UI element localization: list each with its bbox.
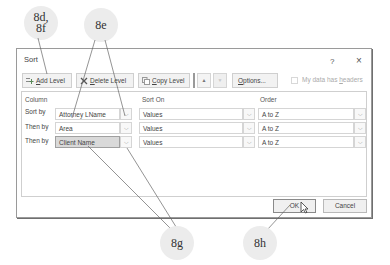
- help-button[interactable]: ?: [330, 57, 334, 66]
- chevron-down-icon[interactable]: ⌵: [120, 136, 132, 148]
- delete-level-button[interactable]: Delete Level: [76, 73, 134, 88]
- delete-level-label: Delete Level: [90, 77, 126, 84]
- options-button[interactable]: Options...: [232, 73, 278, 88]
- chevron-down-icon[interactable]: ⌵: [354, 136, 366, 148]
- sort-on-select-row3[interactable]: Values: [139, 136, 243, 148]
- move-up-button[interactable]: ▲: [197, 73, 211, 88]
- dialog-title: Sort: [24, 55, 38, 64]
- order-select-row1[interactable]: A to Z: [258, 108, 354, 120]
- chevron-down-icon[interactable]: ⌵: [354, 122, 366, 134]
- row-label: Then by: [25, 123, 49, 130]
- callout-8f-line: 8f: [36, 23, 46, 34]
- callout-8e-label: 8e: [95, 20, 106, 31]
- column-header: Column: [25, 96, 47, 103]
- options-label: Options...: [238, 77, 266, 84]
- move-down-button[interactable]: ▼: [213, 73, 227, 88]
- sort-levels-panel: Column Sort On Order Sort by Attorney LN…: [21, 91, 367, 197]
- add-level-button[interactable]: Add Level: [22, 73, 72, 88]
- sort-on-select-row1[interactable]: Values: [139, 108, 243, 120]
- order-select-row2[interactable]: A to Z: [258, 122, 354, 134]
- callout-8d-8f: 8d, 8f: [24, 6, 58, 40]
- chevron-down-icon[interactable]: ⌵: [120, 122, 132, 134]
- ok-button[interactable]: OK: [273, 199, 316, 213]
- sort-on-select-row2[interactable]: Values: [139, 122, 243, 134]
- chevron-down-icon[interactable]: ⌵: [354, 108, 366, 120]
- close-button[interactable]: ×: [356, 55, 362, 66]
- column-select-row1[interactable]: Attorney LName: [55, 108, 120, 120]
- column-select-row2[interactable]: Area: [55, 122, 120, 134]
- row-label: Then by: [25, 137, 49, 144]
- my-data-has-headers-label: My data has headers: [302, 76, 363, 83]
- callout-8h-label: 8h: [254, 238, 266, 249]
- sort-on-header: Sort On: [142, 96, 164, 103]
- delete-x-icon: [80, 77, 88, 85]
- add-level-icon: [26, 77, 34, 85]
- callout-8g-label: 8g: [171, 238, 183, 249]
- callout-8e: 8e: [84, 8, 118, 42]
- mouse-pointer-icon: [300, 200, 309, 218]
- my-data-has-headers-checkbox[interactable]: [291, 77, 298, 84]
- copy-level-button[interactable]: Copy Level: [138, 73, 190, 88]
- order-header: Order: [260, 96, 277, 103]
- copy-icon: [142, 77, 150, 85]
- callout-8g: 8g: [160, 226, 194, 260]
- chevron-down-icon[interactable]: ⌵: [243, 122, 255, 134]
- add-level-label: Add Level: [36, 77, 65, 84]
- copy-level-label: Copy Level: [152, 77, 185, 84]
- sort-dialog: Sort ? × Add Level Delete Level Copy Lev…: [16, 48, 372, 218]
- callout-8h: 8h: [243, 226, 277, 260]
- chevron-down-icon[interactable]: ⌵: [243, 108, 255, 120]
- toolbar-separator: [193, 73, 195, 88]
- order-select-row3[interactable]: A to Z: [258, 136, 354, 148]
- chevron-down-icon[interactable]: ⌵: [243, 136, 255, 148]
- row-label: Sort by: [25, 108, 46, 115]
- column-select-row3[interactable]: Client Name: [55, 136, 120, 148]
- cancel-button[interactable]: Cancel: [323, 199, 367, 213]
- chevron-down-icon[interactable]: ⌵: [120, 108, 132, 120]
